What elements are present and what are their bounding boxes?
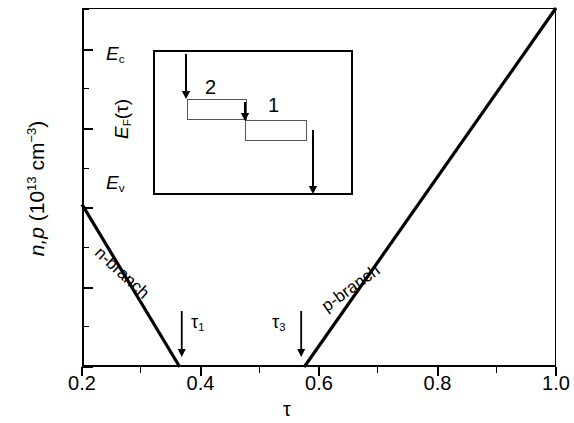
tau1-label: τ1 (191, 312, 204, 333)
inset-ef-argument: (τ) (111, 99, 132, 119)
arrow-band-to-ev (309, 130, 317, 194)
y-tick-major-16 (82, 49, 93, 51)
x-tick-label-0.6: 0.6 (279, 372, 359, 395)
x-tick-label-1.0: 1.0 (516, 372, 574, 395)
figure-root: 0481216 0.20.40.60.81.0 n,p (1013 cm−3) … (0, 0, 574, 423)
x-tick-label-0.8: 0.8 (398, 372, 478, 395)
inset-ec-subscript: c (119, 52, 125, 65)
y-tick-major-0 (82, 366, 93, 368)
x-tick-minor (259, 367, 260, 373)
y-axis-title-mid: cm (25, 143, 48, 177)
y-tick-minor (82, 247, 89, 248)
x-tick-label-0.2: 0.2 (42, 372, 122, 395)
x-tick-minor (140, 367, 141, 373)
inset-label-ec: Ec (106, 43, 125, 65)
y-axis-title: n,p (1013 cm−3) (24, 69, 49, 309)
y-axis-title-symbol: n,p (25, 227, 48, 256)
y-axis-title-close: ) (25, 121, 48, 128)
inset-ec-symbol: E (106, 43, 119, 64)
y-tick-major-12 (82, 128, 93, 130)
inset-ef-symbol: E (111, 126, 132, 139)
x-tick-label-0.4: 0.4 (161, 372, 241, 395)
x-axis-title: τ (0, 398, 574, 421)
inset-ef-subscript: F (120, 119, 133, 126)
inset-step-label-1: 1 (268, 94, 279, 117)
y-tick-minor (82, 88, 89, 89)
arrow-band-to-band (241, 102, 249, 121)
y-axis-title-exp1: 13 (24, 176, 39, 190)
y-tick-major-4 (82, 287, 93, 289)
y-tick-minor (82, 9, 89, 10)
y-axis-title-open: (10 (25, 191, 48, 227)
tau3-label: τ3 (272, 312, 285, 333)
x-tick-minor (496, 367, 497, 373)
tau3-subscript: 3 (279, 321, 285, 333)
inset-band-diagram (153, 50, 353, 195)
inset-arrows (155, 52, 355, 197)
y-axis-title-exp2: −3 (24, 128, 39, 143)
inset-label-ef: EF(τ) (111, 79, 133, 159)
inset-ev-symbol: E (106, 172, 119, 193)
y-tick-major-8 (82, 207, 93, 209)
inset-step-label-2: 2 (205, 76, 216, 99)
inset-ev-subscript: v (119, 181, 125, 194)
arrow-ec-to-band (182, 54, 190, 99)
y-tick-minor (82, 168, 89, 169)
y-tick-minor (82, 326, 89, 327)
inset-label-ev: Ev (106, 172, 125, 194)
x-tick-minor (377, 367, 378, 373)
tau1-subscript: 1 (198, 321, 204, 333)
